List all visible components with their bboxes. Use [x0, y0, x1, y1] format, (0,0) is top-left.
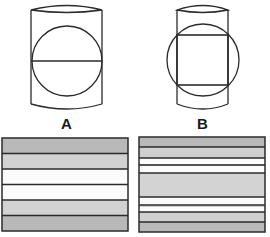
board-b-band-9: [139, 207, 265, 212]
cylinder-b-top-edge: [177, 6, 228, 13]
board-b-band-6: [139, 173, 265, 197]
board-b-band-2: [139, 147, 265, 158]
board-a-band-2: [2, 154, 128, 170]
cylinder-b: [167, 6, 239, 110]
cylinder-a: [31, 6, 102, 110]
board-b-band-3: [139, 158, 265, 164]
cylinder-a-top-edge: [31, 6, 102, 13]
board-a-band-1: [2, 138, 128, 154]
board-b-band-7: [139, 197, 265, 205]
board-a-band-5: [2, 200, 128, 216]
board-a-band-3: [2, 169, 128, 185]
figure-a-label: A: [61, 116, 72, 131]
board-b-band-1: [139, 137, 265, 147]
cylinder-a-bottom-edge: [31, 104, 102, 109]
board-b-band-11: [139, 222, 265, 232]
diagram-canvas: [0, 0, 270, 237]
board-a: [2, 138, 128, 231]
board-b-band-5: [139, 166, 265, 173]
board-a-band-4: [2, 185, 128, 201]
board-a-band-6: [2, 216, 128, 232]
board-b-band-10: [139, 212, 265, 222]
cylinder-b-bottom-edge: [177, 104, 228, 109]
square-cut-b: [177, 35, 228, 85]
figure-b-label: B: [197, 116, 208, 131]
board-b: [139, 137, 265, 232]
